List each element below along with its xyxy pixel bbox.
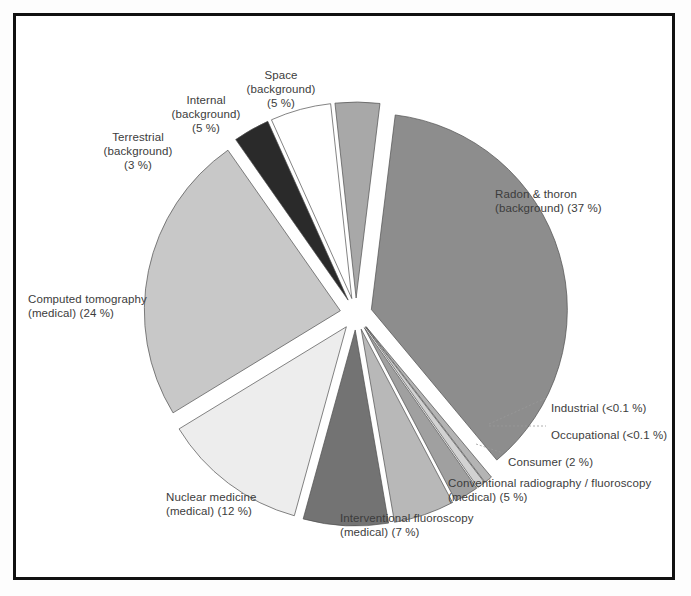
figure-root: Radon & thoron (background) (37 %)Indust… [0,0,691,596]
label-nuclear: Nuclear medicine (medical) (12 %) [166,490,256,518]
label-occupational: Occupational (<0.1 %) [551,428,667,442]
label-radon: Radon & thoron (background) (37 %) [495,187,602,215]
label-consumer: Consumer (2 %) [508,455,593,469]
label-interventional: Interventional fluoroscopy (medical) (7 … [340,511,474,539]
label-ct: Computed tomography (medical) (24 %) [28,292,147,320]
label-terrestrial: Terrestrial (background) (3 %) [68,130,208,172]
label-space: Space (background) (5 %) [211,68,351,110]
label-conventional: Conventional radiography / fluoroscopy (… [448,476,651,504]
label-industrial: Industrial (<0.1 %) [551,401,647,415]
